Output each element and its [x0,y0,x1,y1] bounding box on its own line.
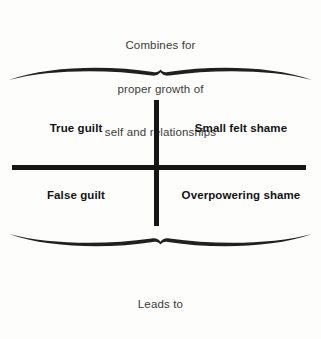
quadrant-label-overpowering-shame: Overpowering shame [161,189,321,202]
guilt-shame-quadrant-diagram: Combines for proper growth of self and r… [0,0,321,339]
vertical-divider [154,100,159,226]
horizontal-divider [12,165,306,170]
bottom-caption-line-1: Leads to [0,297,321,312]
quadrant-grid: True guilt Small felt shame False guilt … [0,96,321,226]
quadrant-label-small-felt-shame: Small felt shame [161,122,321,135]
horizontal-brace-up-icon [8,228,313,254]
quadrant-label-true-guilt: True guilt [0,122,152,135]
bottom-caption: Leads to emotional illness, low self-est… [0,268,321,339]
top-caption-line-1: Combines for [0,38,321,53]
horizontal-brace-down-icon [8,60,313,86]
quadrant-label-false-guilt: False guilt [0,189,152,202]
